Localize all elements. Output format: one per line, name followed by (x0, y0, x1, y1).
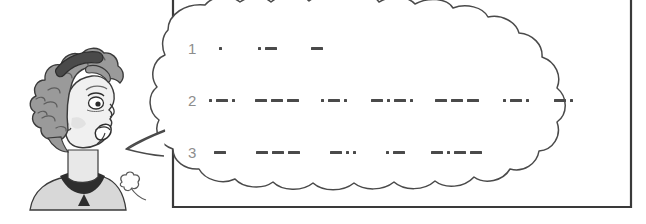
morse-content: 1 2 3 (0, 0, 646, 224)
morse-dash (216, 99, 228, 102)
morse-dash (431, 151, 443, 154)
morse-dot (447, 151, 450, 154)
cartoon-scene: 1 2 3 (0, 0, 646, 224)
morse-dot (321, 99, 324, 102)
morse-dash (271, 99, 283, 102)
morse-dash (311, 47, 323, 50)
morse-dash (394, 99, 406, 102)
morse-dot (346, 151, 349, 154)
morse-dash (451, 99, 463, 102)
morse-dash (265, 47, 277, 50)
morse-dash (287, 99, 299, 102)
morse-dot (353, 151, 356, 154)
morse-group (214, 151, 226, 154)
morse-dash (510, 99, 522, 102)
morse-row-2 (209, 93, 573, 107)
row-number-1: 1 (188, 41, 196, 56)
morse-dot (209, 99, 212, 102)
morse-dot (410, 99, 413, 102)
morse-dash (470, 151, 482, 154)
row-number-3: 3 (188, 145, 196, 160)
morse-group (371, 99, 413, 102)
morse-dot (526, 99, 529, 102)
morse-group (330, 151, 356, 154)
morse-group (554, 99, 573, 102)
morse-group (209, 99, 235, 102)
morse-dash (272, 151, 284, 154)
morse-dash (255, 99, 267, 102)
morse-group (255, 99, 299, 102)
morse-dash (328, 99, 340, 102)
morse-dash (256, 151, 268, 154)
morse-group (503, 99, 529, 102)
morse-group (311, 47, 323, 50)
morse-dot (344, 99, 347, 102)
morse-dash (454, 151, 466, 154)
morse-group (435, 99, 479, 102)
morse-row-1 (219, 41, 323, 55)
morse-dash (435, 99, 447, 102)
morse-dash (554, 99, 566, 102)
morse-dot (386, 151, 389, 154)
morse-group (258, 47, 277, 50)
morse-row-3 (214, 145, 482, 159)
row-number-2: 2 (188, 93, 196, 108)
morse-dot (570, 99, 573, 102)
morse-group (321, 99, 347, 102)
morse-group (386, 151, 405, 154)
morse-dot (387, 99, 390, 102)
morse-dash (467, 99, 479, 102)
morse-dash (214, 151, 226, 154)
morse-group (431, 151, 482, 154)
morse-group (219, 47, 222, 50)
morse-group (256, 151, 300, 154)
morse-dot (232, 99, 235, 102)
morse-dot (219, 47, 222, 50)
morse-dash (371, 99, 383, 102)
morse-dash (288, 151, 300, 154)
morse-dot (503, 99, 506, 102)
morse-dash (393, 151, 405, 154)
morse-dash (330, 151, 342, 154)
morse-dot (258, 47, 261, 50)
